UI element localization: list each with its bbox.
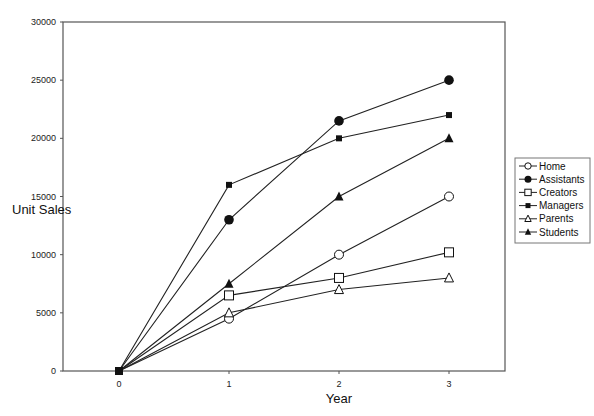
y-tick-label: 0 bbox=[51, 366, 56, 376]
legend-label: Assistants bbox=[539, 174, 585, 185]
origin-marker bbox=[115, 367, 123, 375]
line-chart: 0500010000150002000025000300000123YearUn… bbox=[0, 0, 594, 416]
y-tick-label: 15000 bbox=[31, 192, 56, 202]
y-tick-label: 30000 bbox=[31, 17, 56, 27]
y-tick-label: 5000 bbox=[36, 308, 56, 318]
data-point bbox=[445, 248, 454, 257]
filled-circle-marker-icon bbox=[525, 176, 532, 183]
y-tick-label: 25000 bbox=[31, 75, 56, 85]
data-point bbox=[334, 116, 344, 126]
filled-square-marker-icon bbox=[526, 203, 531, 208]
data-point bbox=[444, 75, 454, 85]
data-point bbox=[335, 273, 344, 282]
legend-label: Creators bbox=[539, 187, 577, 198]
plot-area bbox=[63, 22, 505, 371]
x-tick-label: 0 bbox=[116, 379, 121, 389]
x-tick-label: 3 bbox=[446, 379, 451, 389]
data-point bbox=[225, 291, 234, 300]
legend-label: Home bbox=[539, 161, 566, 172]
open-circle-marker-icon bbox=[525, 163, 531, 169]
legend-label: Students bbox=[539, 227, 578, 238]
y-tick-label: 20000 bbox=[31, 133, 56, 143]
data-point bbox=[446, 112, 452, 118]
x-tick-label: 1 bbox=[226, 379, 231, 389]
data-point bbox=[224, 215, 234, 225]
legend: HomeAssistantsCreatorsManagersParentsStu… bbox=[515, 158, 590, 243]
x-tick-label: 2 bbox=[336, 379, 341, 389]
y-tick-label: 10000 bbox=[31, 250, 56, 260]
legend-label: Managers bbox=[539, 200, 583, 211]
data-point bbox=[336, 135, 342, 141]
data-point bbox=[226, 182, 232, 188]
open-square-marker-icon bbox=[525, 189, 531, 195]
legend-label: Parents bbox=[539, 213, 573, 224]
data-point bbox=[335, 250, 344, 259]
x-axis-title: Year bbox=[326, 391, 353, 406]
y-axis-title: Unit Sales bbox=[12, 202, 72, 217]
data-point bbox=[445, 192, 454, 201]
